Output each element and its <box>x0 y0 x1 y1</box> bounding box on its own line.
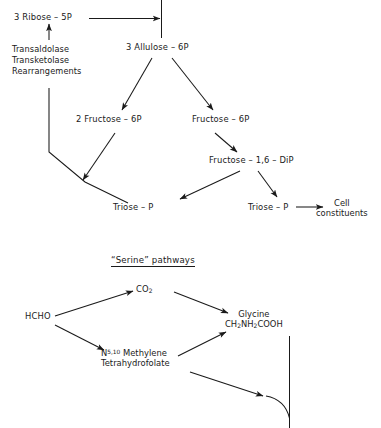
node-allulose-6p: 3 Allulose – 6P <box>126 42 189 53</box>
pathway-figure: 3 Ribose – 5P Transaldolase Transketolas… <box>0 0 381 428</box>
glycine-nh2: NH <box>241 319 254 329</box>
node-fructose-6p-two: 2 Fructose – 6P <box>76 114 142 125</box>
connector-fructose-1-to-fdp <box>215 133 237 152</box>
methylene-rest: Methylene <box>120 348 167 358</box>
co2-subscript: 2 <box>149 287 153 294</box>
connector-curve-into-glycine-line <box>266 396 290 418</box>
methylene-superscript: 5,10 <box>107 349 120 355</box>
node-fructose-1-6-diphosphate: Fructose – 1,6 – DiP <box>209 155 294 166</box>
connector-left-return-path <box>49 88 128 203</box>
node-methylene-tetrahydrofolate: N5,10 Methylene Tetrahydrofolate <box>101 348 170 369</box>
connector-methylene-thf-to-glycine <box>178 332 226 356</box>
node-ribose-5p: 3 Ribose – 5P <box>14 12 72 23</box>
methylene-thf-line-2: Tetrahydrofolate <box>101 358 170 368</box>
node-cell-constituents: Cell constituents <box>316 198 368 219</box>
node-glycine: Glycine CH2NH2COOH <box>225 309 283 330</box>
connector-methylene-thf-to-curve <box>190 372 263 396</box>
serine-pathways-title-quoted: “Serine” <box>111 255 149 265</box>
cell-constituents-line-2: constituents <box>316 208 368 218</box>
cell-constituents-line-1: Cell <box>316 198 368 208</box>
methylene-thf-line-1: N5,10 Methylene <box>101 348 170 358</box>
connector-fructose-2-to-junction <box>83 133 115 180</box>
glycine-name: Glycine <box>225 309 283 319</box>
connector-fdp-to-triose-left <box>180 171 240 199</box>
serine-pathways-title-text: “Serine” pathways <box>111 255 195 267</box>
node-triose-p-right: Triose – P <box>248 202 288 213</box>
section-title-serine-pathways: “Serine” pathways <box>111 255 195 265</box>
connector-hcho-to-methylene-thf <box>55 325 104 350</box>
connector-fdp-to-triose-right <box>258 171 277 197</box>
connector-co2-to-glycine <box>174 292 228 313</box>
node-triose-p-left: Triose – P <box>113 202 153 213</box>
connector-allulose-to-fructose-1 <box>172 58 213 110</box>
connector-hcho-to-co2 <box>55 291 133 316</box>
node-co2: CO2 <box>136 284 153 295</box>
label-transaldolase-transketolase-rearrangements: Transaldolase Transketolase Rearrangemen… <box>12 44 81 76</box>
glycine-ch2: CH <box>225 319 237 329</box>
node-hcho: HCHO <box>25 311 51 322</box>
node-fructose-6p: Fructose – 6P <box>192 114 249 125</box>
glycine-formula: CH2NH2COOH <box>225 319 283 330</box>
serine-pathways-title-rest: pathways <box>149 255 195 265</box>
co2-formula: CO <box>136 284 149 294</box>
connector-allulose-to-fructose-2 <box>122 58 152 110</box>
glycine-cooh: COOH <box>257 319 282 329</box>
